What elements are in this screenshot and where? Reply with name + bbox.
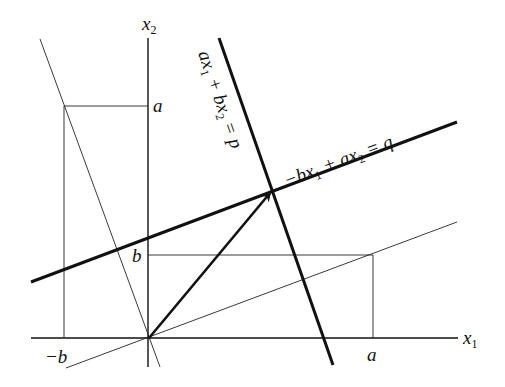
tick-x2-b: b — [132, 246, 142, 265]
diagram-graphics — [0, 0, 505, 387]
rect-upper-left — [64, 106, 148, 338]
line-p — [219, 38, 333, 365]
tick-x1-neg-b: −b — [45, 347, 67, 366]
rect-lower-right — [148, 255, 373, 338]
diagram-canvas: x2 x1 a b a −b ax1 + bx2 = p −bx1 + ax2 … — [0, 0, 505, 387]
x2-axis-label: x2 — [142, 14, 156, 36]
x1-label-sub: 1 — [471, 337, 477, 351]
x2-label-sub: 2 — [150, 23, 156, 37]
tick-x2-a: a — [153, 96, 163, 115]
thin-line-shallow — [66, 222, 457, 368]
x1-axis-label: x1 — [463, 328, 477, 350]
tick-x1-a: a — [367, 345, 377, 364]
thin-line-steep — [40, 39, 160, 367]
